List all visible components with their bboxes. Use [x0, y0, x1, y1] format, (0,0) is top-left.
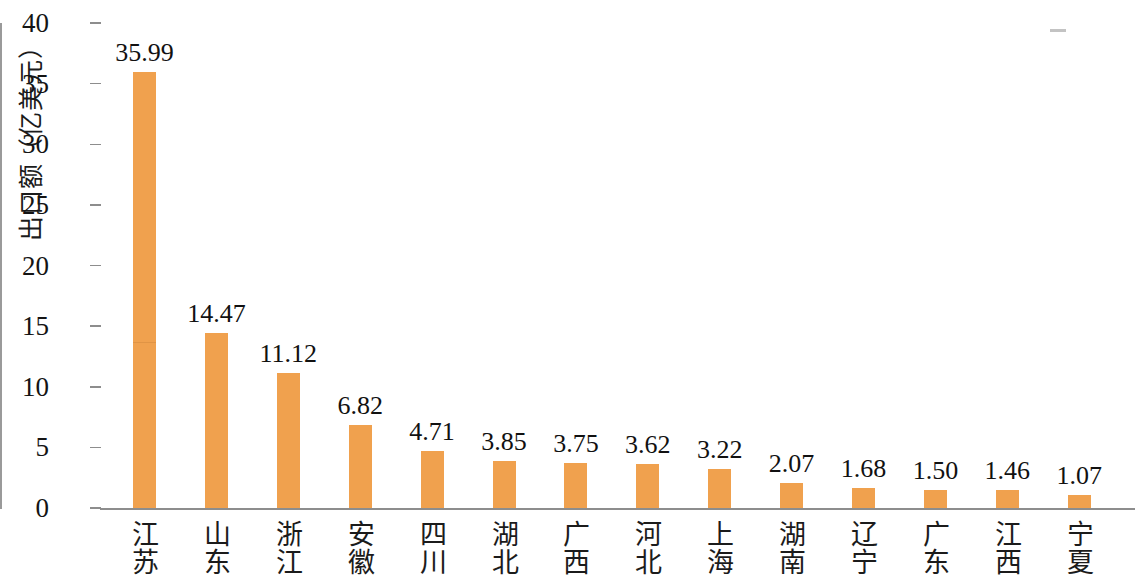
bar-value-label: 35.99: [100, 40, 190, 66]
bar[interactable]: [493, 461, 516, 508]
bar-seam: [133, 342, 156, 343]
x-category-label: 山东: [201, 520, 228, 576]
x-category-label: 江西: [992, 520, 1019, 576]
y-tick-label: 0: [0, 495, 49, 522]
bar-value-label: 1.07: [1034, 463, 1124, 489]
x-category-label: 安徽: [345, 520, 372, 576]
bar-value-label: 6.82: [315, 393, 405, 419]
x-category-label: 湖南: [777, 520, 804, 576]
bar[interactable]: [133, 72, 156, 508]
scan-artifact-mark: [1050, 29, 1066, 32]
x-category-label: 湖北: [489, 520, 516, 576]
y-tick-label: 40: [0, 10, 49, 37]
bar-value-label: 11.12: [243, 341, 333, 367]
x-category-label: 宁夏: [1064, 520, 1091, 576]
bar[interactable]: [996, 490, 1019, 508]
x-category-label: 广东: [920, 520, 947, 576]
bar[interactable]: [708, 469, 731, 508]
plot-area: 35.9914.4711.126.824.713.853.753.623.222…: [100, 23, 1135, 508]
x-category-label: 河北: [633, 520, 660, 576]
y-tick-label: 30: [0, 131, 49, 158]
bar[interactable]: [421, 451, 444, 508]
bar[interactable]: [277, 373, 300, 508]
bar[interactable]: [780, 483, 803, 508]
y-tick-label: 20: [0, 253, 49, 280]
bar[interactable]: [852, 488, 875, 508]
y-tick-label: 10: [0, 374, 49, 401]
y-tick-label: 35: [0, 71, 49, 98]
x-category-label: 四川: [417, 520, 444, 576]
bar[interactable]: [1068, 495, 1091, 508]
x-category-label: 浙江: [273, 520, 300, 576]
bar[interactable]: [205, 333, 228, 508]
bar[interactable]: [564, 463, 587, 508]
x-category-label: 江苏: [130, 520, 157, 576]
bar-chart: 出口额（亿美元） 4035302520151050 35.9914.4711.1…: [0, 0, 1139, 578]
y-tick-label: 25: [0, 192, 49, 219]
x-category-label: 辽宁: [849, 520, 876, 576]
bar[interactable]: [349, 425, 372, 508]
bar[interactable]: [924, 490, 947, 508]
x-axis-line: [100, 508, 1135, 510]
bar[interactable]: [636, 464, 659, 508]
bar-value-label: 14.47: [171, 301, 261, 327]
x-category-label: 广西: [561, 520, 588, 576]
y-tick-label: 15: [0, 313, 49, 340]
y-tick-label: 5: [0, 434, 49, 461]
x-category-label: 上海: [705, 520, 732, 576]
